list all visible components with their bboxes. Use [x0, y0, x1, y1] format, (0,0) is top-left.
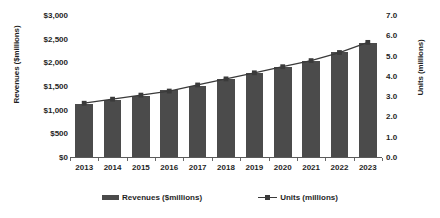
x-axis-tick-mark — [382, 158, 383, 161]
y-axis-right-tick-label: 7.0 — [386, 12, 397, 20]
x-axis: 2013201420152016201720182019202020212022… — [70, 158, 382, 178]
legend-label-units: Units (millions) — [280, 193, 338, 202]
y-axis-right-tick-label: 2.0 — [386, 113, 397, 121]
y-axis-right-ticks: 0.01.02.03.04.05.06.07.0 — [386, 0, 414, 218]
x-axis-tick-label-2016: 2016 — [155, 163, 183, 172]
chart-container: Revenues ($millions) Units (millions) $0… — [0, 0, 440, 218]
y-axis-left-title: Revenues ($millions) — [12, 17, 21, 113]
chart-legend: Revenues ($millions) Units (millions) — [0, 188, 440, 206]
x-axis-tick-label-2022: 2022 — [325, 163, 353, 172]
y-axis-right-tick-label: 4.0 — [386, 73, 397, 81]
units-marker-2016 — [167, 89, 172, 94]
y-axis-left-tick-label: $500 — [50, 130, 68, 138]
y-axis-left-tick-label: $0 — [59, 154, 68, 162]
y-axis-right-tick-label: 1.0 — [386, 134, 397, 142]
y-axis-right-tick-label: 6.0 — [386, 32, 397, 40]
x-axis-tick-label-2017: 2017 — [183, 163, 211, 172]
x-axis-tick-mark — [127, 158, 128, 161]
x-axis-tick-label-2023: 2023 — [354, 163, 382, 172]
legend-item-revenues: Revenues ($millions) — [102, 193, 202, 202]
x-axis-tick-mark — [155, 158, 156, 161]
y-axis-right-tick-label: 3.0 — [386, 93, 397, 101]
x-axis-tick-label-2013: 2013 — [70, 163, 98, 172]
line-series-units — [70, 16, 382, 158]
units-marker-2021 — [309, 58, 314, 63]
units-line-path — [84, 42, 368, 103]
y-axis-right-tick-label: 5.0 — [386, 53, 397, 61]
legend-label-revenues: Revenues ($millions) — [122, 193, 202, 202]
x-axis-tick-label-2019: 2019 — [240, 163, 268, 172]
x-axis-tick-mark — [70, 158, 71, 161]
units-marker-2014 — [110, 97, 115, 102]
y-axis-left-tick-label: $1,000 — [44, 107, 68, 115]
x-axis-tick-mark — [297, 158, 298, 161]
line-marker-swatch-icon — [258, 194, 277, 201]
x-axis-tick-label-2015: 2015 — [127, 163, 155, 172]
units-marker-2020 — [280, 64, 285, 69]
y-axis-left-ticks: $0$500$1,000$1,500$2,000$2,500$3,000 — [28, 0, 68, 218]
x-axis-tick-mark — [240, 158, 241, 161]
units-marker-2022 — [337, 50, 342, 55]
y-axis-right-title: Units (millions) — [416, 20, 425, 116]
legend-item-units: Units (millions) — [258, 193, 338, 202]
x-axis-tick-label-2021: 2021 — [297, 163, 325, 172]
y-axis-right-tick-label: 0.0 — [386, 154, 397, 162]
units-marker-2019 — [252, 70, 257, 75]
bar-swatch-icon — [102, 195, 119, 200]
x-axis-tick-mark — [212, 158, 213, 161]
x-axis-tick-mark — [269, 158, 270, 161]
units-marker-2017 — [195, 83, 200, 88]
y-axis-left-tick-label: $2,000 — [44, 59, 68, 67]
plot-area — [70, 16, 382, 158]
x-axis-tick-label-2014: 2014 — [98, 163, 126, 172]
x-axis-tick-label-2020: 2020 — [269, 163, 297, 172]
x-axis-tick-label-2018: 2018 — [212, 163, 240, 172]
x-axis-tick-mark — [183, 158, 184, 161]
units-marker-2018 — [224, 76, 229, 81]
units-marker-2013 — [82, 101, 87, 106]
y-axis-left-tick-label: $3,000 — [44, 12, 68, 20]
x-axis-tick-mark — [325, 158, 326, 161]
y-axis-left-tick-label: $2,500 — [44, 36, 68, 44]
x-axis-tick-mark — [354, 158, 355, 161]
x-axis-tick-mark — [98, 158, 99, 161]
units-marker-2023 — [365, 40, 370, 45]
units-marker-2015 — [139, 93, 144, 98]
y-axis-left-tick-label: $1,500 — [44, 83, 68, 91]
